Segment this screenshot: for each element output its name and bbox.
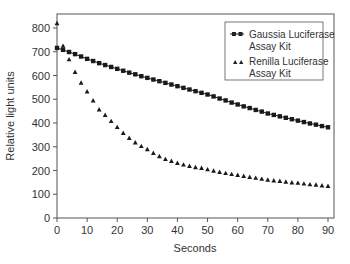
data-point-square bbox=[290, 117, 294, 121]
data-point-triangle bbox=[308, 182, 313, 186]
data-point-triangle bbox=[103, 113, 108, 117]
data-point-square bbox=[211, 94, 215, 98]
data-point-square bbox=[73, 52, 77, 56]
legend-label-gaussia-line1: Gaussia Luciferase bbox=[249, 29, 335, 40]
data-point-square bbox=[223, 98, 227, 102]
data-point-square bbox=[175, 84, 179, 88]
y-tick-label: 100 bbox=[32, 188, 50, 200]
x-tick-label: 20 bbox=[111, 224, 123, 236]
data-point-triangle bbox=[85, 89, 90, 93]
legend-label-gaussia-line2: Assay Kit bbox=[249, 41, 291, 52]
data-point-square bbox=[109, 65, 113, 69]
data-point-square bbox=[229, 100, 233, 104]
data-point-square bbox=[260, 109, 264, 113]
data-point-triangle bbox=[253, 175, 258, 179]
data-point-square bbox=[320, 124, 324, 128]
y-tick-label: 400 bbox=[32, 117, 50, 129]
legend-label-renilla-line1: Renilla Luciferase bbox=[249, 56, 329, 67]
data-point-triangle bbox=[277, 179, 282, 183]
data-point-triangle bbox=[169, 159, 174, 163]
data-point-square bbox=[235, 102, 239, 106]
data-point-square bbox=[308, 121, 312, 125]
data-point-triangle bbox=[283, 179, 288, 183]
data-point-triangle bbox=[181, 162, 186, 166]
x-tick-label: 90 bbox=[322, 224, 334, 236]
y-tick-label: 700 bbox=[32, 46, 50, 58]
data-point-triangle bbox=[67, 57, 72, 61]
data-point-triangle bbox=[145, 147, 150, 151]
data-point-square bbox=[157, 79, 161, 83]
data-point-square bbox=[272, 113, 276, 117]
data-point-triangle bbox=[241, 174, 246, 178]
x-tick-label: 40 bbox=[171, 224, 183, 236]
data-point-square bbox=[217, 96, 221, 100]
legend-label-renilla-line2: Assay Kit bbox=[249, 68, 291, 79]
data-point-triangle bbox=[175, 161, 180, 165]
data-point-triangle bbox=[289, 180, 294, 184]
data-point-square bbox=[241, 104, 245, 108]
data-point-triangle bbox=[115, 125, 120, 129]
data-point-triangle bbox=[73, 70, 78, 74]
data-point-square bbox=[79, 54, 83, 58]
data-point-square bbox=[193, 89, 197, 93]
data-point-triangle bbox=[157, 154, 162, 158]
chart: 0100200300400500600700800 01020304050607… bbox=[0, 0, 350, 264]
data-point-triangle bbox=[217, 170, 222, 174]
data-point-triangle bbox=[91, 98, 96, 102]
x-tick-label: 60 bbox=[232, 224, 244, 236]
data-point-triangle bbox=[259, 176, 264, 180]
data-point-triangle bbox=[265, 177, 270, 181]
y-tick-label: 300 bbox=[32, 141, 50, 153]
x-tick-label: 30 bbox=[141, 224, 153, 236]
data-point-triangle bbox=[109, 119, 114, 123]
data-point-square bbox=[248, 106, 252, 110]
y-tick-label: 600 bbox=[32, 70, 50, 82]
data-point-square bbox=[314, 122, 318, 126]
data-point-triangle bbox=[247, 175, 252, 179]
data-point-square bbox=[115, 67, 119, 71]
data-point-square bbox=[97, 61, 101, 65]
data-point-square bbox=[103, 63, 107, 67]
data-point-triangle bbox=[187, 164, 192, 168]
data-point-triangle bbox=[302, 181, 307, 185]
legend: Gaussia Luciferase Assay Kit Renilla Luc… bbox=[225, 22, 335, 80]
data-point-square bbox=[296, 118, 300, 122]
data-point-square bbox=[67, 50, 71, 54]
data-point-triangle bbox=[61, 43, 66, 47]
data-point-square bbox=[199, 91, 203, 95]
data-point-square bbox=[169, 82, 173, 86]
data-point-square bbox=[163, 81, 167, 85]
data-point-square bbox=[151, 77, 155, 81]
data-point-triangle bbox=[199, 165, 204, 169]
data-point-square bbox=[91, 59, 95, 63]
data-point-triangle bbox=[163, 157, 168, 161]
data-point-square bbox=[145, 76, 149, 80]
data-point-triangle bbox=[121, 131, 126, 135]
data-point-square bbox=[302, 120, 306, 124]
data-point-square bbox=[139, 74, 143, 78]
y-tick-label: 500 bbox=[32, 93, 50, 105]
data-point-triangle bbox=[55, 21, 60, 25]
x-tick-label: 10 bbox=[81, 224, 93, 236]
data-point-triangle bbox=[127, 136, 132, 140]
data-point-triangle bbox=[193, 165, 198, 169]
y-tick-label: 800 bbox=[32, 22, 50, 34]
data-point-triangle bbox=[320, 183, 325, 187]
data-point-triangle bbox=[295, 180, 300, 184]
data-point-square bbox=[121, 69, 125, 73]
data-point-triangle bbox=[139, 144, 144, 148]
data-point-triangle bbox=[79, 80, 84, 84]
x-tick-label: 0 bbox=[54, 224, 60, 236]
data-point-square bbox=[61, 48, 65, 52]
data-point-triangle bbox=[235, 173, 240, 177]
data-point-square bbox=[205, 92, 209, 96]
data-point-square bbox=[85, 57, 89, 61]
y-tick-label: 200 bbox=[32, 165, 50, 177]
data-point-triangle bbox=[271, 178, 276, 182]
data-point-square bbox=[254, 108, 258, 112]
x-tick-label: 70 bbox=[262, 224, 274, 236]
data-point-square bbox=[133, 72, 137, 76]
y-axis-title: Relative light units bbox=[4, 71, 16, 161]
data-point-triangle bbox=[133, 140, 138, 144]
data-point-square bbox=[181, 86, 185, 90]
